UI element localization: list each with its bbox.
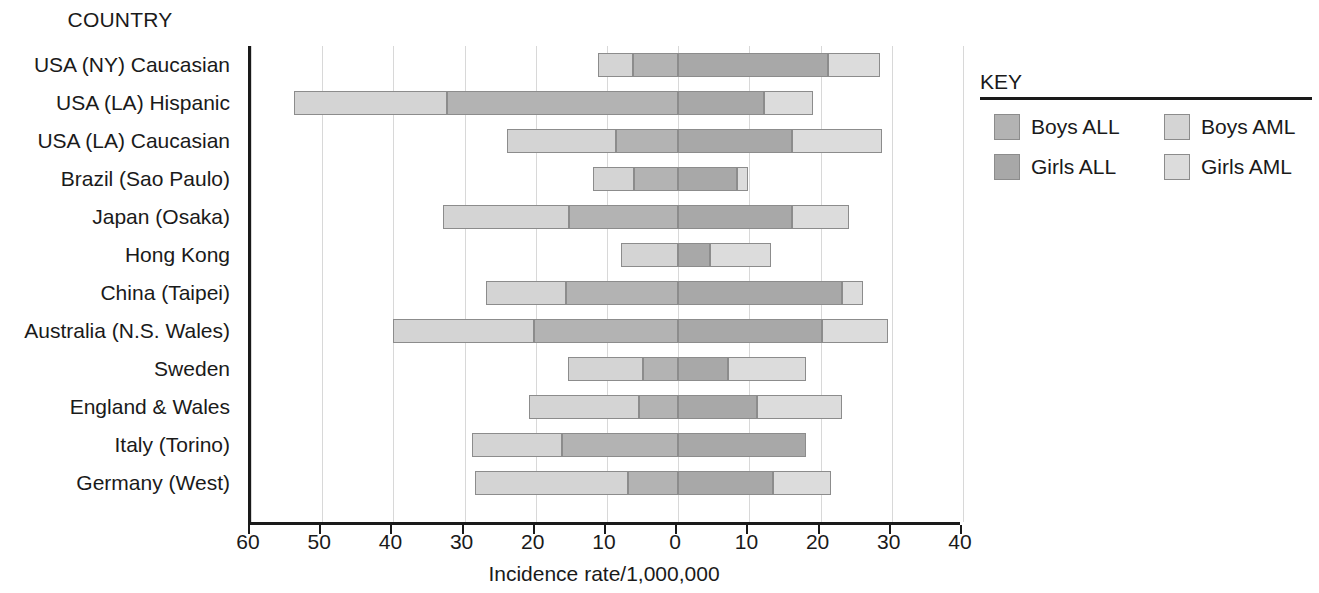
category-label: China (Taipei) xyxy=(100,274,230,312)
bar-segment-boys-aml xyxy=(294,91,447,115)
x-axis-line xyxy=(248,522,960,525)
legend-label: Boys AML xyxy=(1201,115,1296,139)
legend-swatch-boys_aml xyxy=(1164,114,1190,140)
category-label: Australia (N.S. Wales) xyxy=(24,312,230,350)
bar-segment-girls-aml xyxy=(764,91,814,115)
bar-row xyxy=(251,464,960,502)
category-label: Sweden xyxy=(154,350,230,388)
x-axis-tick-label: 0 xyxy=(645,530,705,554)
bar-row xyxy=(251,388,960,426)
category-label: Italy (Torino) xyxy=(114,426,230,464)
bar-segment-girls-aml xyxy=(757,395,842,419)
x-axis-tick-label: 10 xyxy=(574,530,634,554)
chart-page: COUNTRY USA (NY) CaucasianUSA (LA) Hispa… xyxy=(0,0,1319,593)
bar-segment-boys-all xyxy=(628,471,678,495)
bar-row xyxy=(251,312,960,350)
x-axis-tick-label: 20 xyxy=(503,530,563,554)
bar-segment-girls-all xyxy=(678,167,737,191)
bar-row xyxy=(251,122,960,160)
bar-segment-girls-all xyxy=(678,395,756,419)
category-label: England & Wales xyxy=(70,388,230,426)
category-label: USA (LA) Hispanic xyxy=(56,84,230,122)
bar-segment-boys-aml xyxy=(593,167,634,191)
bar-segment-boys-aml xyxy=(472,433,562,457)
bar-segment-girls-aml xyxy=(822,319,888,343)
bar-segment-girls-aml xyxy=(737,167,748,191)
bar-segment-boys-aml xyxy=(393,319,534,343)
bar-segment-boys-aml xyxy=(475,471,628,495)
gridline xyxy=(963,46,964,522)
bar-series-container xyxy=(251,46,960,522)
category-label: Japan (Osaka) xyxy=(92,198,230,236)
bar-row xyxy=(251,350,960,388)
plot-area xyxy=(248,46,960,522)
bar-row xyxy=(251,46,960,84)
bar-segment-girls-all xyxy=(678,129,792,153)
bar-segment-boys-all xyxy=(569,205,678,229)
x-axis-tick-label: 30 xyxy=(859,530,919,554)
legend-label: Girls AML xyxy=(1201,155,1292,179)
bar-segment-boys-all xyxy=(534,319,678,343)
legend-title: KEY xyxy=(980,70,1312,97)
bar-segment-boys-all xyxy=(562,433,678,457)
bar-segment-boys-all xyxy=(634,167,678,191)
category-label: USA (NY) Caucasian xyxy=(34,46,230,84)
legend-items: Boys ALLBoys AMLGirls ALLGirls AML xyxy=(980,114,1312,180)
x-axis-title: Incidence rate/1,000,000 xyxy=(248,562,960,586)
x-axis-tick-label: 40 xyxy=(360,530,420,554)
bar-segment-girls-aml xyxy=(773,471,831,495)
legend-swatch-girls_aml xyxy=(1164,154,1190,180)
bar-row xyxy=(251,236,960,274)
bar-segment-boys-aml xyxy=(443,205,569,229)
legend-divider xyxy=(980,97,1312,100)
bar-segment-girls-all xyxy=(678,53,828,77)
bar-segment-girls-all xyxy=(678,91,763,115)
category-label: Germany (West) xyxy=(76,464,230,502)
bar-segment-girls-all xyxy=(678,471,773,495)
bar-segment-girls-all xyxy=(678,281,842,305)
bar-row xyxy=(251,160,960,198)
bar-segment-girls-all xyxy=(678,319,822,343)
bar-segment-boys-all xyxy=(639,395,678,419)
bar-segment-boys-all xyxy=(566,281,678,305)
bar-segment-girls-all xyxy=(678,205,792,229)
category-axis-labels: USA (NY) CaucasianUSA (LA) HispanicUSA (… xyxy=(0,46,238,522)
x-axis-tick-label: 30 xyxy=(432,530,492,554)
bar-segment-boys-aml xyxy=(486,281,566,305)
legend-item: Girls AML xyxy=(1150,154,1312,180)
legend-swatch-girls_all xyxy=(994,154,1020,180)
bar-segment-boys-all xyxy=(616,129,679,153)
bar-segment-girls-aml xyxy=(842,281,863,305)
country-column-heading: COUNTRY xyxy=(0,8,240,32)
bar-segment-girls-aml xyxy=(728,357,806,381)
category-label: Hong Kong xyxy=(125,236,230,274)
x-axis-tick-label: 40 xyxy=(930,530,990,554)
legend-item: Boys AML xyxy=(1150,114,1312,140)
bar-segment-boys-all xyxy=(447,91,678,115)
bar-segment-girls-all xyxy=(678,357,728,381)
bar-segment-boys-all xyxy=(643,357,679,381)
legend-label: Girls ALL xyxy=(1031,155,1116,179)
bar-row xyxy=(251,274,960,312)
bar-row xyxy=(251,426,960,464)
bar-segment-girls-aml xyxy=(710,243,771,267)
legend-label: Boys ALL xyxy=(1031,115,1120,139)
x-axis-tick-label: 10 xyxy=(716,530,776,554)
legend-swatch-boys_all xyxy=(994,114,1020,140)
legend-item: Girls ALL xyxy=(980,154,1142,180)
bar-segment-boys-aml xyxy=(568,357,643,381)
bar-row xyxy=(251,198,960,236)
legend: KEY Boys ALLBoys AMLGirls ALLGirls AML xyxy=(980,70,1312,180)
bar-segment-boys-aml xyxy=(598,53,632,77)
bar-row xyxy=(251,84,960,122)
bar-segment-girls-aml xyxy=(792,205,849,229)
category-label: USA (LA) Caucasian xyxy=(37,122,230,160)
bar-segment-girls-all xyxy=(678,433,806,457)
bar-segment-boys-aml xyxy=(529,395,639,419)
legend-item: Boys ALL xyxy=(980,114,1142,140)
x-axis-tick-label: 20 xyxy=(788,530,848,554)
bar-segment-girls-all xyxy=(678,243,710,267)
category-label: Brazil (Sao Paulo) xyxy=(61,160,230,198)
x-axis-tick-label: 50 xyxy=(289,530,349,554)
bar-segment-girls-aml xyxy=(828,53,881,77)
